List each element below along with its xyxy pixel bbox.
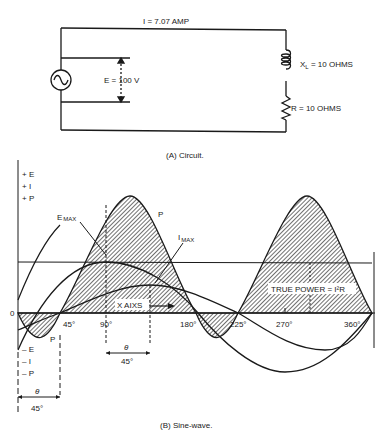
resistor-zigzag-icon [282, 96, 290, 120]
theta-left-symbol: θ [35, 387, 40, 396]
label-plus-e: + E [22, 170, 34, 179]
tick-label-45: 45° [63, 320, 75, 329]
top-wire [61, 28, 286, 30]
label-minus-p: – P [22, 369, 34, 378]
power-lobe-positive-2 [238, 196, 372, 313]
bottom-wire [61, 130, 286, 132]
circuit-caption: (A) Circuit. [166, 151, 204, 160]
arrow-right-icon [56, 395, 60, 399]
tick-label-225: 225° [230, 320, 247, 329]
x-axis-label: X AIXS [117, 301, 142, 310]
inductor-coil-icon [282, 50, 291, 69]
tick-label-90: 90° [100, 320, 112, 329]
true-power-label: TRUE POWER = I²R [271, 285, 345, 294]
figure: I = 7.07 AMP E = 100 V XL = 10 OHMS R = … [0, 0, 390, 435]
resistor-label: R = 10 OHMS [291, 104, 341, 113]
label-plus-i: + I [22, 182, 31, 191]
arrow-left-icon [18, 395, 22, 399]
voltage-label: E = 100 V [104, 76, 140, 85]
power-lobe-negative-1 [18, 313, 60, 338]
arrow-up-icon [118, 58, 124, 63]
tick-label-360: 360° [344, 320, 361, 329]
sine-wave-caption: (B) Sine-wave. [160, 421, 212, 430]
e-max-label: EMAX [57, 213, 76, 222]
theta-center-value: 45° [121, 357, 133, 366]
label-minus-e: – E [22, 345, 34, 354]
p-label-top: P [158, 210, 163, 219]
i-max-label: IMAX [178, 233, 194, 243]
label-plus-p: + P [22, 194, 34, 203]
arrow-right-icon [146, 351, 150, 355]
p-label-bottom: P [50, 335, 55, 344]
tick-label-180: 180° [180, 320, 197, 329]
circuit-diagram [51, 28, 291, 132]
power-lobe-positive-1 [60, 196, 196, 313]
theta-left-value: 45° [31, 404, 43, 413]
arrow-left-icon [106, 351, 110, 355]
arrow-down-icon [118, 97, 124, 102]
current-label: I = 7.07 AMP [143, 17, 189, 26]
theta-center-symbol: θ [124, 343, 129, 352]
label-minus-i: – I [22, 357, 31, 366]
tick-label-270: 270° [276, 320, 293, 329]
origin-label: 0 [10, 309, 15, 318]
inductor-label: XL = 10 OHMS [300, 60, 353, 70]
